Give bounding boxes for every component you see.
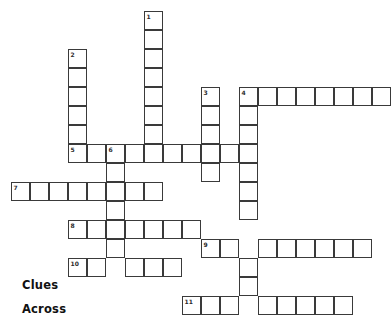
crossword-cell[interactable] bbox=[239, 163, 258, 182]
crossword-cell[interactable] bbox=[239, 125, 258, 144]
crossword-cell[interactable] bbox=[239, 106, 258, 125]
crossword-cell[interactable] bbox=[106, 239, 125, 258]
crossword-cell[interactable] bbox=[49, 182, 68, 201]
crossword-cell[interactable] bbox=[144, 144, 163, 163]
crossword-cell[interactable] bbox=[239, 182, 258, 201]
crossword-cell[interactable] bbox=[125, 220, 144, 239]
crossword-cell[interactable] bbox=[144, 11, 163, 30]
crossword-cell[interactable] bbox=[68, 125, 87, 144]
crossword-cell[interactable] bbox=[372, 87, 391, 106]
crossword-cell[interactable] bbox=[144, 106, 163, 125]
crossword-cell[interactable] bbox=[182, 144, 201, 163]
crossword-cell[interactable] bbox=[239, 201, 258, 220]
crossword-cell[interactable] bbox=[277, 239, 296, 258]
crossword-cell[interactable] bbox=[239, 258, 258, 277]
crossword-cell[interactable] bbox=[68, 182, 87, 201]
crossword-cell[interactable] bbox=[296, 296, 315, 315]
crossword-cell[interactable] bbox=[144, 49, 163, 68]
crossword-cell[interactable] bbox=[353, 239, 372, 258]
crossword-cell[interactable] bbox=[68, 106, 87, 125]
crossword-cell[interactable] bbox=[239, 144, 258, 163]
crossword-cell[interactable] bbox=[239, 87, 258, 106]
crossword-cell[interactable] bbox=[68, 49, 87, 68]
clues-heading: Clues bbox=[22, 278, 58, 292]
crossword-cell[interactable] bbox=[87, 258, 106, 277]
crossword-cell[interactable] bbox=[144, 87, 163, 106]
crossword-cell[interactable] bbox=[277, 296, 296, 315]
crossword-cell[interactable] bbox=[106, 182, 125, 201]
crossword-cell[interactable] bbox=[144, 220, 163, 239]
crossword-cell[interactable] bbox=[68, 87, 87, 106]
crossword-cell[interactable] bbox=[68, 144, 87, 163]
crossword-cell[interactable] bbox=[258, 87, 277, 106]
across-heading: Across bbox=[22, 302, 66, 316]
crossword-cell[interactable] bbox=[87, 144, 106, 163]
crossword-cell[interactable] bbox=[144, 182, 163, 201]
crossword-cell[interactable] bbox=[296, 239, 315, 258]
crossword-cell[interactable] bbox=[315, 239, 334, 258]
crossword-cell[interactable] bbox=[201, 239, 220, 258]
crossword-cell[interactable] bbox=[220, 239, 239, 258]
crossword-cell[interactable] bbox=[144, 68, 163, 87]
crossword-cell[interactable] bbox=[106, 201, 125, 220]
crossword-cell[interactable] bbox=[144, 30, 163, 49]
crossword-cell[interactable] bbox=[201, 106, 220, 125]
crossword-cell[interactable] bbox=[182, 296, 201, 315]
crossword-cell[interactable] bbox=[87, 182, 106, 201]
crossword-cell[interactable] bbox=[258, 239, 277, 258]
crossword-cell[interactable] bbox=[125, 182, 144, 201]
crossword-cell[interactable] bbox=[201, 163, 220, 182]
crossword-cell[interactable] bbox=[315, 87, 334, 106]
crossword-cell[interactable] bbox=[144, 258, 163, 277]
crossword-cell[interactable] bbox=[277, 87, 296, 106]
crossword-cell[interactable] bbox=[201, 125, 220, 144]
crossword-cell[interactable] bbox=[68, 220, 87, 239]
crossword-cell[interactable] bbox=[87, 220, 106, 239]
crossword-cell[interactable] bbox=[334, 296, 353, 315]
crossword-cell[interactable] bbox=[106, 163, 125, 182]
crossword-cell[interactable] bbox=[239, 277, 258, 296]
crossword-cell[interactable] bbox=[163, 258, 182, 277]
crossword-cell[interactable] bbox=[353, 87, 372, 106]
crossword-cell[interactable] bbox=[11, 182, 30, 201]
crossword-cell[interactable] bbox=[258, 296, 277, 315]
crossword-cell[interactable] bbox=[315, 296, 334, 315]
crossword-cell[interactable] bbox=[220, 296, 239, 315]
crossword-cell[interactable] bbox=[68, 258, 87, 277]
crossword-cell[interactable] bbox=[334, 239, 353, 258]
crossword-cell[interactable] bbox=[201, 296, 220, 315]
crossword-cell[interactable] bbox=[125, 258, 144, 277]
crossword-cell[interactable] bbox=[163, 144, 182, 163]
crossword-cell[interactable] bbox=[30, 182, 49, 201]
crossword-cell[interactable] bbox=[106, 220, 125, 239]
crossword-cell[interactable] bbox=[296, 87, 315, 106]
crossword-cell[interactable] bbox=[125, 144, 144, 163]
crossword-cell[interactable] bbox=[182, 220, 201, 239]
crossword-cell[interactable] bbox=[201, 144, 220, 163]
crossword-cell[interactable] bbox=[106, 144, 125, 163]
crossword-cell[interactable] bbox=[163, 220, 182, 239]
crossword-cell[interactable] bbox=[201, 87, 220, 106]
crossword-cell[interactable] bbox=[68, 68, 87, 87]
crossword-cell[interactable] bbox=[144, 125, 163, 144]
crossword-cell[interactable] bbox=[220, 144, 239, 163]
crossword-cell[interactable] bbox=[334, 87, 353, 106]
